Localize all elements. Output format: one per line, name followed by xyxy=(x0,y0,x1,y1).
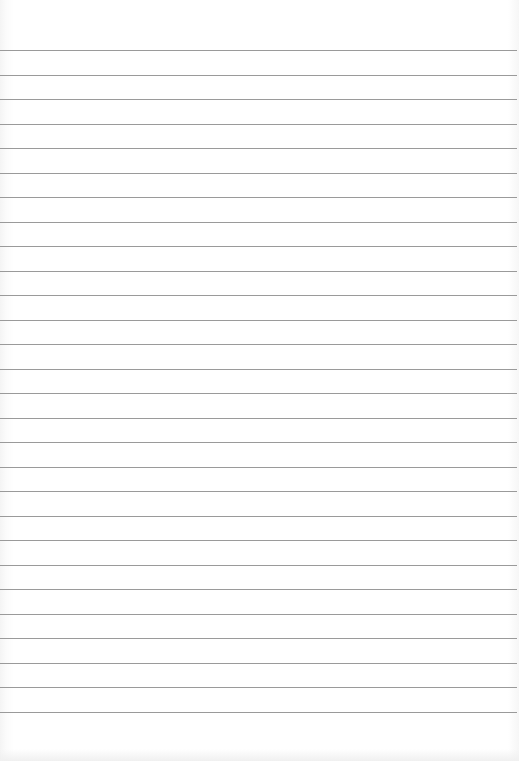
ruled-line xyxy=(0,516,517,517)
ruled-line xyxy=(0,271,517,272)
ruled-line xyxy=(0,173,517,174)
ruled-line xyxy=(0,638,517,639)
page-bottom-shadow xyxy=(0,749,519,761)
ruled-line xyxy=(0,540,517,541)
ruled-line xyxy=(0,320,517,321)
ruled-line xyxy=(0,687,517,688)
ruled-line xyxy=(0,442,517,443)
ruled-line xyxy=(0,467,517,468)
ruled-line xyxy=(0,344,517,345)
ruled-line xyxy=(0,75,517,76)
ruled-line xyxy=(0,295,517,296)
ruled-line xyxy=(0,124,517,125)
ruled-line xyxy=(0,50,517,51)
ruled-line xyxy=(0,589,517,590)
lined-paper-page xyxy=(0,0,519,761)
ruled-line xyxy=(0,614,517,615)
ruled-line xyxy=(0,246,517,247)
ruled-line xyxy=(0,148,517,149)
ruled-line xyxy=(0,418,517,419)
ruled-line xyxy=(0,393,517,394)
ruled-line xyxy=(0,222,517,223)
ruled-line xyxy=(0,491,517,492)
ruled-line xyxy=(0,663,517,664)
ruled-line xyxy=(0,99,517,100)
ruled-line xyxy=(0,369,517,370)
ruled-line xyxy=(0,712,517,713)
ruled-line xyxy=(0,565,517,566)
ruled-line xyxy=(0,197,517,198)
